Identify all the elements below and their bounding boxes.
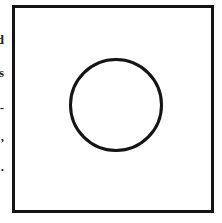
cropped-text-fragment: . bbox=[0, 160, 4, 173]
circle-shape bbox=[69, 58, 163, 152]
cropped-text-fragment: s bbox=[0, 66, 4, 79]
cropped-text-fragment: , bbox=[0, 130, 4, 143]
cropped-text-fragment: d bbox=[0, 33, 4, 46]
cropped-text-fragment: - bbox=[0, 101, 4, 114]
